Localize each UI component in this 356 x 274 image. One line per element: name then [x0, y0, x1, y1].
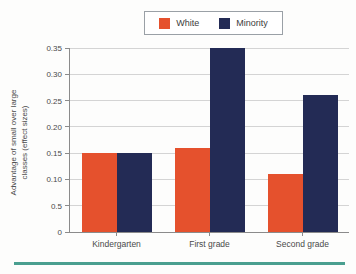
y-axis-tick-label: 0.20	[46, 122, 62, 131]
legend-swatch-minority	[219, 18, 230, 29]
y-axis-title-line2: classes (effect sizes)	[19, 105, 28, 179]
bar-white-kindergarten	[82, 153, 117, 232]
y-axis-tick	[65, 126, 70, 127]
bar-group	[175, 48, 245, 232]
x-category-label: Second grade	[276, 239, 329, 249]
footer-rule	[14, 262, 345, 265]
bar-white-first-grade	[175, 148, 210, 232]
x-axis-tick	[302, 232, 303, 236]
legend-item-minority: Minority	[219, 18, 268, 29]
y-axis-tick	[65, 179, 70, 180]
y-axis-tick	[65, 48, 70, 49]
legend-label-minority: Minority	[236, 18, 268, 28]
x-axis-tick	[116, 232, 117, 236]
y-axis-tick	[65, 232, 70, 233]
y-axis-tick-label: 0.5	[51, 201, 62, 210]
y-axis-tick-label: 0.25	[46, 96, 62, 105]
legend-label-white: White	[176, 18, 199, 28]
x-category-label: Kindergarten	[92, 239, 141, 249]
y-axis-tick-label: 0	[58, 228, 62, 237]
chart-figure: WhiteMinority Advantage of small over la…	[0, 0, 356, 274]
legend-swatch-white	[159, 18, 170, 29]
y-axis-tick-label: 0.30	[46, 70, 62, 79]
bar-minority-kindergarten	[117, 153, 152, 232]
bar-white-second-grade	[268, 174, 303, 232]
bar-minority-first-grade	[210, 48, 245, 232]
y-axis-tick-label: 0.35	[46, 44, 62, 53]
y-axis-tick	[65, 205, 70, 206]
x-category-label: First grade	[189, 239, 230, 249]
y-axis-title-line1: Advantage of small over large	[9, 90, 18, 196]
x-axis-tick	[209, 232, 210, 236]
legend-item-white: White	[159, 18, 199, 29]
legend: WhiteMinority	[144, 11, 283, 35]
y-axis-title: Advantage of small over large classes (e…	[9, 58, 30, 228]
y-axis-tick	[65, 74, 70, 75]
bar-group	[82, 153, 152, 232]
plot-area: 0.350.300.250.200.150.100.50Kindergarten…	[69, 48, 349, 233]
y-axis-tick	[65, 153, 70, 154]
y-axis-tick	[65, 100, 70, 101]
y-axis-tick-label: 0.10	[46, 175, 62, 184]
bar-minority-second-grade	[303, 95, 338, 232]
y-axis-tick-label: 0.15	[46, 149, 62, 158]
bar-group	[268, 95, 338, 232]
